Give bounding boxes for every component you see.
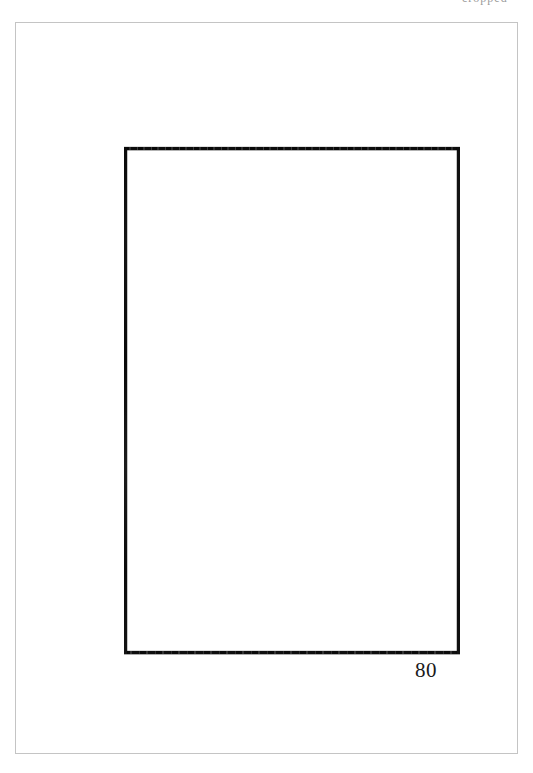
rectangle-top-edge bbox=[124, 147, 460, 150]
rectangle-left-edge bbox=[124, 147, 127, 654]
rectangle-bottom-edge bbox=[124, 651, 460, 654]
hand-drawn-rectangle bbox=[124, 147, 460, 654]
scanned-page: cropped 80 bbox=[0, 0, 533, 773]
page-header-fragment: cropped bbox=[462, 0, 514, 5]
scan-border-frame: 80 bbox=[15, 22, 518, 754]
measurement-label: 80 bbox=[415, 660, 437, 681]
rectangle-right-edge bbox=[457, 147, 460, 654]
